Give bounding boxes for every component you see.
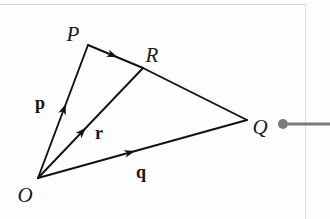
point-label-P: P [67, 24, 80, 45]
figure-canvas: P R Q O p r q [0, 0, 330, 219]
vector-label-p: p [35, 94, 45, 112]
vector-diagram [0, 0, 330, 219]
anchor-connector [278, 119, 330, 129]
vector-label-q: q [136, 163, 146, 181]
vector-label-r: r [95, 124, 103, 142]
point-label-R: R [146, 45, 159, 66]
point-label-Q: Q [252, 117, 267, 138]
point-label-O: O [17, 185, 32, 206]
edges-group [38, 45, 247, 178]
